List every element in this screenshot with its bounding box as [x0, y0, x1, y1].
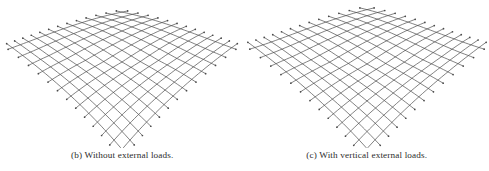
gridshell-rod [118, 44, 238, 148]
rod-end-tip [159, 116, 161, 118]
rod-end-tip [483, 48, 485, 50]
rod-end-tip [186, 90, 188, 92]
rod-end-tip [38, 73, 40, 75]
rod-end-tip [263, 37, 265, 39]
rod-end-tip [379, 144, 381, 146]
rod-end-tip [442, 28, 444, 30]
rod-end-tip [384, 10, 386, 12]
rod-end-tip [359, 7, 361, 9]
rod-end-tip [157, 17, 159, 19]
gridshell-drawing-b [0, 0, 244, 148]
rod-end-tip [186, 25, 188, 27]
rod-end-tip [299, 25, 301, 27]
rod-end-tip [353, 144, 355, 146]
rod-end-tip [66, 23, 68, 25]
rod-end-tip [469, 37, 471, 39]
rod-end-tip [76, 20, 78, 22]
rod-end-tip [57, 25, 59, 27]
gridshell-rod [67, 23, 187, 90]
gridshell-rod [272, 35, 396, 128]
rod-end-tip [414, 109, 416, 111]
gridshell-rod [248, 42, 372, 148]
rod-end-tip [404, 15, 406, 17]
rod-end-tip [168, 107, 170, 109]
gridshell-rod [360, 8, 484, 49]
rod-end-tip [270, 65, 272, 67]
rod-end-tip [289, 28, 291, 30]
rod-end-tip [344, 135, 346, 137]
rod-end-tip [6, 43, 8, 45]
gridshell-rod [264, 37, 388, 136]
rod-end-tip [229, 40, 231, 42]
rod-end-tip [348, 10, 350, 12]
rod-end-tip [221, 37, 223, 39]
rod-end-tip [14, 40, 16, 42]
rod-end-tip [101, 135, 103, 137]
gridshell-rod [349, 11, 473, 58]
rod-end-tip [405, 117, 407, 119]
rod-end-tip [290, 82, 292, 84]
rod-end-tip [147, 15, 149, 17]
rod-end-tip [309, 100, 311, 102]
rod-end-tip [235, 48, 237, 50]
gridshell-rod [7, 44, 127, 148]
rod-end-tip [259, 57, 261, 59]
rod-end-tip [387, 135, 389, 137]
gridshell-rod [39, 18, 159, 74]
rod-end-tip [177, 99, 179, 101]
gridshell-rod [337, 35, 461, 128]
gridshell-rod [260, 11, 384, 58]
rod-end-tip [150, 125, 152, 127]
rod-end-tip [485, 41, 487, 43]
gridshell-canvas-b [0, 0, 244, 148]
gridshell-rod [85, 32, 205, 117]
rod-end-tip [212, 34, 214, 36]
rod-end-tip [462, 65, 464, 67]
rod-end-tip [299, 91, 301, 93]
rod-end-tip [47, 81, 49, 83]
rod-end-tip [477, 39, 479, 41]
gridshell-rod [23, 38, 143, 135]
subcaption-c: (c) With vertical external loads. [306, 149, 427, 161]
rod-end-tip [338, 12, 340, 14]
rod-end-tip [176, 23, 178, 25]
rod-end-tip [93, 125, 95, 127]
rod-end-tip [18, 56, 20, 58]
rod-end-tip [394, 12, 396, 14]
subfigure-c-with-vertical-external-loads: (c) With vertical external loads. [245, 0, 489, 171]
gridshell-canvas-c [245, 0, 489, 148]
rod-end-tip [105, 12, 107, 14]
gridshell-drawing-c [245, 0, 489, 148]
rod-end-tip [433, 25, 435, 27]
rod-end-tip [127, 10, 129, 12]
rod-end-tip [22, 37, 24, 39]
rod-end-tip [442, 82, 444, 84]
rod-end-tip [167, 20, 169, 22]
gridshell-rod [40, 32, 160, 117]
rod-end-tip [452, 74, 454, 76]
rod-end-tip [134, 144, 136, 146]
gridshell-rod [58, 23, 178, 90]
rod-end-tip [318, 19, 320, 21]
rod-end-tip [328, 15, 330, 17]
subcaption-b: (b) Without external loads. [71, 149, 174, 161]
rod-end-tip [195, 28, 197, 30]
rod-end-tip [109, 144, 111, 146]
rod-end-tip [95, 15, 97, 17]
rod-end-tip [84, 116, 86, 118]
rod-end-tip [249, 48, 251, 50]
gridshell-rod [19, 13, 139, 57]
rod-end-tip [204, 31, 206, 33]
rod-end-tip [28, 65, 30, 67]
rod-end-tip [336, 126, 338, 128]
subfigure-b-without-external-loads: (b) Without external loads. [0, 0, 245, 171]
gridshell-rod [345, 37, 469, 136]
rod-end-tip [142, 135, 144, 137]
rod-end-tip [66, 99, 68, 101]
gridshell-rod [67, 26, 187, 99]
rod-end-tip [57, 90, 59, 92]
rod-end-tip [247, 41, 249, 43]
rod-end-tip [48, 28, 50, 30]
rod-end-tip [432, 91, 434, 93]
rod-end-tip [460, 34, 462, 36]
